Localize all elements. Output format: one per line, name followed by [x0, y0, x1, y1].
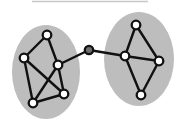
node-R1 — [132, 21, 141, 30]
node-R4 — [137, 91, 146, 100]
node-L5 — [29, 99, 38, 108]
node-L3 — [54, 61, 63, 70]
node-L2 — [20, 54, 29, 63]
node-R2 — [121, 52, 130, 61]
network-graph-diagram — [0, 0, 178, 125]
bridge-node — [85, 46, 93, 54]
node-R3 — [155, 57, 164, 66]
node-L4 — [60, 90, 69, 99]
node-L1 — [43, 31, 52, 40]
